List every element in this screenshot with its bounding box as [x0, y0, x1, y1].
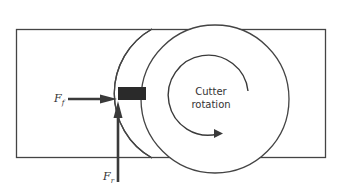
radial-force-symbol: F: [103, 170, 111, 183]
diagram-canvas: Ff Fr Cutter rotation: [0, 0, 341, 194]
feed-force-subscript: f: [62, 99, 65, 107]
radial-force-label: Fr: [103, 170, 114, 185]
feed-force-symbol: F: [54, 92, 62, 105]
feed-force-label: Ff: [54, 92, 64, 107]
cutter-rotation-line1: Cutter: [181, 85, 241, 98]
diagram-svg: [0, 0, 341, 194]
cutting-tool-insert: [118, 87, 146, 100]
cutter-rotation-line2: rotation: [181, 98, 241, 111]
cutter-rotation-label: Cutter rotation: [181, 85, 241, 111]
radial-force-subscript: r: [111, 177, 114, 185]
